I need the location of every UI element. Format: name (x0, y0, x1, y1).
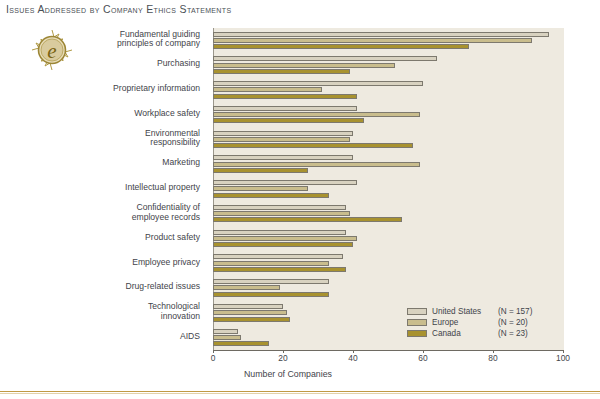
bar-eu (213, 87, 322, 92)
bar-eu (213, 236, 357, 241)
legend-label-canada: Canada (432, 329, 498, 338)
x-axis-title-text: Number of Companies (244, 369, 332, 379)
bar-us (213, 106, 357, 111)
bar-eu (213, 63, 395, 68)
category-label: Confidentiality ofemployee records (10, 203, 200, 222)
bar-eu (213, 137, 350, 142)
bar-ca (213, 341, 269, 346)
bar-us (213, 254, 343, 259)
bar-us (213, 205, 346, 210)
category-label-line: innovation (10, 312, 200, 322)
legend: United States (N = 157) Europe (N = 20) … (407, 306, 555, 339)
bar-ca (213, 143, 413, 148)
bar-group (213, 102, 563, 127)
category-label: Workplace safety (10, 109, 200, 119)
bar-eu (213, 38, 532, 43)
bar-ca (213, 69, 350, 74)
bar-us (213, 155, 353, 160)
bar-ca (213, 168, 308, 173)
bar-group (213, 276, 563, 301)
category-label-line: Drug-related issues (10, 282, 200, 292)
bar-us (213, 56, 437, 61)
bar-eu (213, 285, 280, 290)
legend-n-europe: (N = 20) (498, 318, 528, 327)
legend-n-canada: (N = 23) (498, 329, 528, 338)
x-tick-label: 100 (556, 353, 570, 363)
category-label: Product safety (10, 233, 200, 243)
bar-us (213, 32, 549, 37)
bar-us (213, 81, 423, 86)
bar-ca (213, 217, 402, 222)
bar-group (213, 127, 563, 152)
footer-rule (0, 391, 600, 392)
bar-eu (213, 335, 241, 340)
legend-item-united-states: United States (N = 157) (407, 306, 555, 317)
category-label-line: Employee privacy (10, 258, 200, 268)
bar-us (213, 230, 346, 235)
bar-rows (213, 28, 563, 350)
bar-ca (213, 242, 353, 247)
legend-swatch-united-states (407, 308, 427, 315)
bar-ca (213, 44, 469, 49)
bar-eu (213, 211, 350, 216)
bar-eu (213, 310, 287, 315)
bar-us (213, 304, 283, 309)
x-axis-title: Number of Companies (0, 369, 600, 379)
bar-group (213, 53, 563, 78)
x-tick-label: 0 (211, 353, 216, 363)
bar-eu (213, 186, 308, 191)
legend-swatch-europe (407, 319, 427, 326)
category-label-line: AIDS (10, 332, 200, 342)
category-label: Proprietary information (10, 84, 200, 94)
legend-label-united-states: United States (432, 307, 498, 316)
bar-group (213, 28, 563, 53)
category-label-line: Marketing (10, 158, 200, 168)
bar-group (213, 251, 563, 276)
bar-group (213, 201, 563, 226)
category-label-line: employee records (10, 213, 200, 223)
legend-n-united-states: (N = 157) (498, 307, 532, 316)
bar-eu (213, 112, 420, 117)
bar-ca (213, 267, 346, 272)
bar-ca (213, 118, 364, 123)
x-axis-line (213, 350, 564, 351)
category-label: AIDS (10, 332, 200, 342)
category-label-line: Purchasing (10, 59, 200, 69)
bar-us (213, 329, 238, 334)
footer-rule-secondary (0, 393, 600, 394)
bar-ca (213, 317, 290, 322)
bar-us (213, 180, 357, 185)
category-label: Environmentalresponsibility (10, 129, 200, 148)
category-label: Employee privacy (10, 258, 200, 268)
bar-group (213, 177, 563, 202)
legend-swatch-canada (407, 330, 427, 337)
x-tick-label: 60 (418, 353, 427, 363)
category-label: Purchasing (10, 59, 200, 69)
category-label: Technologicalinnovation (10, 302, 200, 321)
bar-eu (213, 261, 329, 266)
bar-group (213, 226, 563, 251)
legend-item-canada: Canada (N = 23) (407, 328, 555, 339)
x-tick-label: 80 (488, 353, 497, 363)
category-label-line: responsibility (10, 138, 200, 148)
chart-page: Issues Addressed by Company Ethics State… (0, 0, 600, 399)
legend-label-europe: Europe (432, 318, 498, 327)
category-axis-labels: Fundamental guidingprinciples of company… (0, 28, 208, 350)
bar-ca (213, 292, 329, 297)
bar-eu (213, 162, 420, 167)
category-label-line: principles of company (10, 39, 200, 49)
bar-us (213, 131, 353, 136)
bar-ca (213, 193, 329, 198)
category-label-line: Proprietary information (10, 84, 200, 94)
category-label: Fundamental guidingprinciples of company (10, 30, 200, 49)
page-title: Issues Addressed by Company Ethics State… (6, 3, 231, 15)
bar-ca (213, 94, 357, 99)
category-label: Drug-related issues (10, 282, 200, 292)
x-tick-label: 20 (278, 353, 287, 363)
category-label-line: Product safety (10, 233, 200, 243)
category-label-line: Intellectual property (10, 183, 200, 193)
category-label-line: Workplace safety (10, 109, 200, 119)
category-label: Intellectual property (10, 183, 200, 193)
bar-us (213, 279, 329, 284)
x-tick-label: 40 (348, 353, 357, 363)
